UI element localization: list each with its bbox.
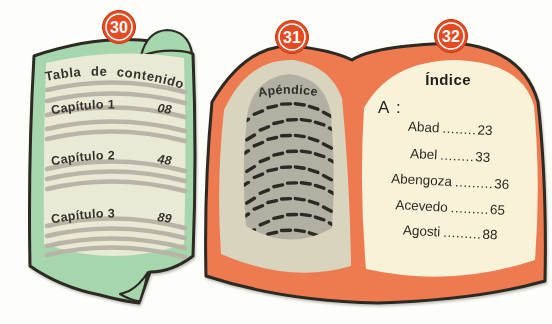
index-entry-page: 33 bbox=[475, 149, 491, 165]
appendix-text-dash bbox=[274, 216, 283, 218]
appendix-text-dash bbox=[268, 106, 277, 108]
index-page bbox=[362, 60, 538, 277]
appendix-text-dash bbox=[268, 201, 277, 203]
index-entry-page: 88 bbox=[482, 227, 498, 243]
index-entry-page: 36 bbox=[494, 176, 510, 192]
figure-badge-32: 32 bbox=[435, 20, 468, 53]
index-entry-leader: ......... bbox=[455, 174, 494, 191]
book-parts-illustration: Tabla de contenido Capítulo 1 08 Capítul… bbox=[0, 0, 552, 324]
appendix-text-dash bbox=[295, 135, 304, 136]
index-entry-page: 65 bbox=[490, 202, 506, 218]
figure-badge-31: 31 bbox=[276, 21, 309, 54]
appendix-text-dash bbox=[274, 122, 283, 124]
figure-badge-30: 30 bbox=[103, 11, 136, 44]
appendix-text-dash bbox=[295, 230, 304, 231]
appendix-text-dash bbox=[301, 151, 310, 152]
appendix-text-dash bbox=[301, 120, 310, 121]
closed-book: Tabla de contenido Capítulo 1 08 Capítul… bbox=[30, 30, 196, 303]
appendix-text-dash bbox=[301, 183, 310, 184]
index-entry-leader: ......... bbox=[443, 225, 482, 242]
appendix-text-dash bbox=[274, 153, 283, 155]
index-entry-leader: ........ bbox=[442, 121, 477, 138]
index-title: Índice bbox=[425, 71, 471, 88]
chapter-2-page-number: 48 bbox=[156, 152, 173, 168]
index-entry-name: Agosti bbox=[402, 223, 440, 240]
index-entry-name: Abengoza bbox=[391, 171, 453, 189]
appendix-text-dash bbox=[301, 214, 310, 215]
appendix-text-dash bbox=[268, 137, 277, 139]
index-entry-leader: ........ bbox=[440, 147, 475, 164]
index-section-letter: A : bbox=[378, 98, 402, 117]
index-entry-name: Abel bbox=[410, 146, 438, 162]
appendix-text-dash bbox=[268, 169, 277, 171]
appendix-text-dash bbox=[274, 185, 283, 187]
badge-number: 30 bbox=[110, 19, 128, 36]
appendix-text-dash bbox=[295, 104, 304, 105]
chapter-1-page-number: 08 bbox=[157, 101, 173, 117]
badge-number: 32 bbox=[442, 28, 460, 45]
appendix-text-dash bbox=[295, 167, 304, 168]
index-entry-name: Abad bbox=[408, 119, 440, 136]
illustration-canvas: Tabla de contenido Capítulo 1 08 Capítul… bbox=[0, 0, 552, 324]
chapter-3-page-number: 89 bbox=[157, 210, 173, 226]
open-book: Apéndice Índice A : Abad........23 Abel.… bbox=[206, 43, 546, 303]
index-entry-page: 23 bbox=[477, 122, 493, 138]
index-entry-leader: ......... bbox=[450, 200, 489, 217]
appendix-text-dash bbox=[268, 232, 277, 234]
index-entry-name: Acevedo bbox=[395, 197, 448, 215]
appendix-text-dash bbox=[295, 199, 304, 200]
badge-number: 31 bbox=[283, 29, 301, 46]
